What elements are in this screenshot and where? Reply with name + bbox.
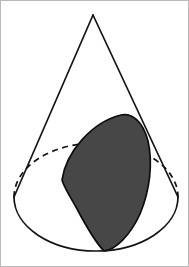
cone-figure: Cone with shaded conic section A right c… <box>0 0 189 267</box>
cone-diagram-svg: Cone with shaded conic section A right c… <box>0 0 189 267</box>
conic-section-region <box>62 115 150 251</box>
